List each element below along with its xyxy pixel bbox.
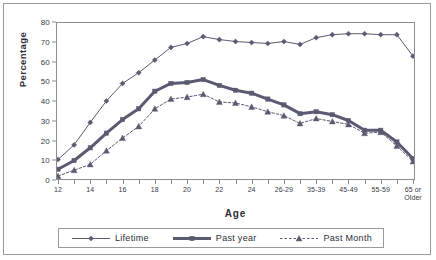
legend-item-past-year[interactable]: Past year — [171, 233, 257, 244]
x-tick-mark-2 — [90, 180, 91, 184]
x-tick-label-22: 65 or Older — [404, 186, 422, 202]
data-point-0-8 — [184, 41, 189, 46]
y-axis-ticks: 01020304050607080 — [4, 22, 56, 180]
data-point-2-12 — [249, 104, 255, 110]
series-line-1 — [58, 80, 413, 170]
x-tick-mark-11 — [236, 180, 237, 184]
legend-swatch-triangle-icon — [278, 233, 320, 244]
y-tick-label-10: 10 — [41, 156, 50, 165]
x-tick-mark-22 — [413, 180, 414, 184]
legend-label-1: Past year — [216, 233, 257, 243]
data-point-2-9 — [200, 91, 206, 97]
x-tick-label-12: 24 — [248, 186, 256, 194]
data-point-1-16 — [314, 110, 318, 114]
x-tick-mark-13 — [268, 180, 269, 184]
x-tick-mark-10 — [219, 180, 220, 184]
data-point-0-9 — [201, 34, 206, 39]
x-tick-mark-3 — [106, 180, 107, 184]
data-point-2-6 — [152, 106, 158, 112]
x-tick-mark-20 — [381, 180, 382, 184]
x-tick-label-10: 22 — [215, 186, 223, 194]
data-point-2-4 — [120, 135, 126, 141]
x-tick-label-4: 16 — [119, 186, 127, 194]
data-point-1-17 — [330, 112, 334, 116]
data-point-1-1 — [72, 158, 76, 162]
data-point-1-3 — [104, 131, 108, 135]
x-tick-label-6: 18 — [151, 186, 159, 194]
y-tick-label-50: 50 — [41, 77, 50, 86]
data-point-1-4 — [120, 117, 124, 121]
x-tick-mark-0 — [58, 180, 59, 184]
data-point-0-22 — [410, 54, 414, 59]
chart-legend: LifetimePast yearPast Month — [58, 228, 384, 248]
data-point-1-8 — [185, 80, 189, 84]
data-point-1-7 — [169, 81, 173, 85]
series-past-year — [57, 77, 414, 171]
x-tick-mark-1 — [74, 180, 75, 184]
y-tick-label-30: 30 — [41, 116, 50, 125]
data-point-0-13 — [265, 41, 270, 46]
x-tick-mark-7 — [171, 180, 172, 184]
x-tick-label-18: 45-49 — [339, 186, 357, 194]
data-point-1-14 — [282, 103, 286, 107]
x-tick-mark-5 — [139, 180, 140, 184]
data-point-1-2 — [88, 146, 92, 150]
data-point-0-16 — [314, 35, 319, 40]
series-line-0 — [58, 34, 413, 160]
data-point-0-12 — [249, 40, 254, 45]
x-tick-label-0: 12 — [54, 186, 62, 194]
y-tick-label-20: 20 — [41, 136, 50, 145]
x-tick-mark-4 — [123, 180, 124, 184]
x-tick-mark-6 — [155, 180, 156, 184]
data-point-2-16 — [313, 116, 319, 122]
x-tick-label-14: 26-29 — [275, 186, 293, 194]
data-point-2-8 — [184, 94, 190, 100]
data-point-1-9 — [201, 77, 205, 81]
legend-label-0: Lifetime — [115, 233, 149, 243]
data-point-1-6 — [153, 89, 157, 93]
x-tick-mark-12 — [252, 180, 253, 184]
data-point-1-5 — [136, 107, 140, 111]
x-tick-mark-16 — [316, 180, 317, 184]
data-point-0-19 — [362, 31, 367, 36]
data-point-0-20 — [378, 32, 383, 37]
y-tick-label-0: 0 — [45, 176, 50, 185]
x-tick-mark-21 — [397, 180, 398, 184]
legend-swatch-diamond-icon — [70, 233, 112, 244]
y-tick-label-70: 70 — [41, 37, 50, 46]
plot-area — [56, 22, 415, 180]
x-tick-mark-19 — [365, 180, 366, 184]
y-tick-label-60: 60 — [41, 57, 50, 66]
data-point-0-11 — [233, 39, 238, 44]
data-point-1-10 — [217, 83, 221, 87]
legend-swatch-square-icon — [171, 233, 213, 244]
y-tick-label-80: 80 — [41, 18, 50, 27]
legend-label-2: Past Month — [323, 233, 372, 243]
x-tick-mark-14 — [284, 180, 285, 184]
data-point-2-0 — [57, 173, 61, 179]
data-point-2-1 — [71, 167, 77, 173]
data-point-1-13 — [266, 97, 270, 101]
data-point-0-17 — [330, 32, 335, 37]
data-point-1-0 — [57, 167, 60, 171]
legend-item-lifetime[interactable]: Lifetime — [70, 233, 149, 244]
x-tick-mark-17 — [332, 180, 333, 184]
x-tick-mark-9 — [203, 180, 204, 184]
x-tick-label-16: 35-39 — [307, 186, 325, 194]
x-tick-mark-15 — [300, 180, 301, 184]
x-tick-label-20: 55-59 — [372, 186, 390, 194]
x-tick-mark-18 — [348, 180, 349, 184]
data-point-1-15 — [298, 111, 302, 115]
x-tick-label-2: 14 — [86, 186, 94, 194]
data-point-0-10 — [217, 37, 222, 42]
data-point-0-14 — [281, 39, 286, 44]
series-line-2 — [58, 94, 413, 176]
x-tick-mark-8 — [187, 180, 188, 184]
legend-item-past-month[interactable]: Past Month — [278, 233, 372, 244]
data-point-1-11 — [233, 88, 237, 92]
y-tick-label-40: 40 — [41, 97, 50, 106]
data-point-0-18 — [346, 31, 351, 36]
series-lifetime — [57, 31, 414, 162]
series-past-month — [57, 91, 414, 178]
x-tick-label-8: 20 — [183, 186, 191, 194]
